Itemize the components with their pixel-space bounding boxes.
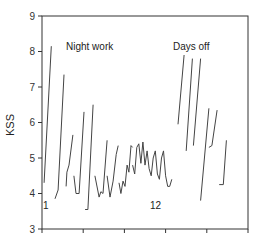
kss-segment xyxy=(107,146,118,198)
kss-segment xyxy=(201,108,209,200)
kss-segment xyxy=(133,142,172,186)
kss-chart: 3456789 KSS Night work Days off 1 12 xyxy=(0,0,256,240)
y-tick-label: 6 xyxy=(29,117,35,128)
kss-segment xyxy=(74,112,84,194)
kss-segment xyxy=(85,105,93,210)
y-axis-label: KSS xyxy=(4,114,16,136)
annotation-night-work: Night work xyxy=(66,41,114,52)
y-tick-label: 3 xyxy=(29,224,35,235)
x-axis-ticks xyxy=(42,229,248,233)
y-tick-label: 8 xyxy=(29,46,35,57)
kss-segment xyxy=(119,146,133,194)
kss-segment xyxy=(209,110,217,147)
kss-segment xyxy=(44,46,51,183)
annotation-day-12: 12 xyxy=(150,200,162,211)
kss-segment xyxy=(219,140,226,184)
kss-segment xyxy=(186,59,192,151)
kss-segment xyxy=(193,59,200,146)
y-tick-label: 7 xyxy=(29,82,35,93)
annotation-start-day: 1 xyxy=(43,200,49,211)
kss-segment xyxy=(55,75,64,199)
kss-series xyxy=(44,46,226,209)
y-tick-label: 9 xyxy=(29,11,35,22)
annotation-days-off: Days off xyxy=(173,41,210,52)
y-tick-label: 5 xyxy=(29,153,35,164)
kss-segment xyxy=(178,55,184,124)
kss-segment xyxy=(95,140,107,197)
y-tick-label: 4 xyxy=(29,188,35,199)
y-axis-ticks: 3456789 xyxy=(29,11,42,235)
kss-segment xyxy=(66,135,73,187)
